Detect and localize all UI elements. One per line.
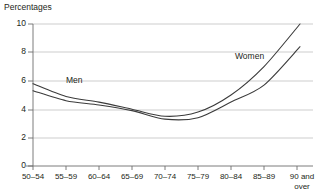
series-annotation-women: Women	[235, 52, 264, 61]
series-annotation-men: Men	[66, 76, 83, 85]
y-axis-label-2: 2	[4, 133, 26, 142]
y-axis-label-8: 8	[4, 47, 26, 56]
y-axis-label-0: 0	[4, 161, 26, 170]
chart-plot-area	[0, 0, 325, 189]
series-line-women	[33, 24, 300, 116]
x-axis-ticks	[33, 166, 297, 170]
y-axis-label-4: 4	[4, 105, 26, 114]
y-axis-label-10: 10	[4, 19, 26, 28]
x-axis-label-90-over: 90 and over	[280, 172, 324, 189]
y-axis-label-6: 6	[4, 76, 26, 85]
y-axis-ticks	[28, 24, 33, 166]
chart-container: Percentages	[0, 0, 325, 189]
